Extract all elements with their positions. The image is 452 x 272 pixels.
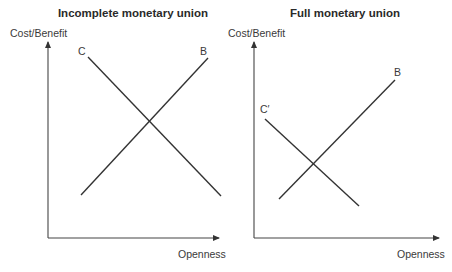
left-cost-curve-label: C: [78, 45, 86, 57]
left-curves: [81, 57, 221, 196]
right-diagram-title: Full monetary union: [290, 7, 400, 19]
right-y-axis-label: Cost/Benefit: [228, 27, 285, 39]
left-axes: [48, 42, 219, 238]
right-axes: [254, 42, 439, 238]
left-benefit-curve: [81, 58, 208, 195]
right-cost-curve-label: C′: [260, 103, 270, 115]
left-benefit-curve-label: B: [200, 45, 207, 57]
left-cost-curve: [88, 57, 221, 196]
left-diagram-title: Incomplete monetary union: [58, 7, 208, 19]
diagram-canvas: [0, 0, 452, 272]
right-curves: [265, 80, 395, 206]
left-x-axis-label: Openness: [178, 248, 226, 260]
left-y-axis-label: Cost/Benefit: [10, 27, 67, 39]
right-x-axis-label: Openness: [397, 248, 445, 260]
right-benefit-curve: [279, 80, 395, 199]
right-benefit-curve-label: B: [394, 66, 401, 78]
